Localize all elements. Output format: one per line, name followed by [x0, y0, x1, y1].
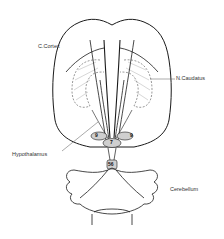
brain-diagram [0, 0, 224, 239]
label-cerebellum: Cerebellum [170, 187, 198, 193]
label-cortex: C.Cortex [38, 44, 60, 50]
nucleus-7-label: 7 [110, 140, 113, 145]
nucleus-9-right-label: 9 [130, 133, 133, 138]
cerebrum-outline [53, 19, 172, 147]
pathway-fibers [90, 40, 134, 142]
nucleus-9-left-label: 9 [95, 133, 98, 138]
nucleus-56-label: 56 [108, 162, 114, 167]
nucleus-9-left [91, 132, 107, 140]
cerebellum [66, 168, 157, 225]
label-hypothalamus: Hypothalamus [12, 152, 47, 158]
label-caudatus: N.Caudatus [176, 76, 205, 82]
